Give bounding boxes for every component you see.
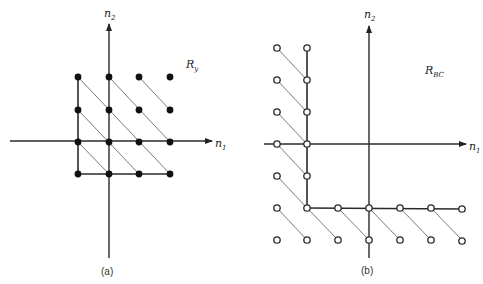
n1-label-a: n1 — [215, 137, 227, 152]
figure-a: n2 n1 Ry (a) — [10, 7, 227, 277]
caption-b: (b) — [361, 265, 373, 276]
region-label-b: RBC — [424, 64, 445, 79]
region-label-a: Ry — [185, 58, 199, 73]
figure-b: n2 n1 RBC (b) — [264, 8, 481, 276]
n2-label-b: n2 — [364, 8, 376, 23]
n1-label-b: n1 — [469, 140, 481, 155]
n2-label-a: n2 — [104, 7, 116, 22]
diagonals-a — [78, 77, 170, 174]
diagram-canvas: n2 n1 Ry (a) — [0, 0, 483, 284]
caption-a: (a) — [101, 266, 113, 277]
